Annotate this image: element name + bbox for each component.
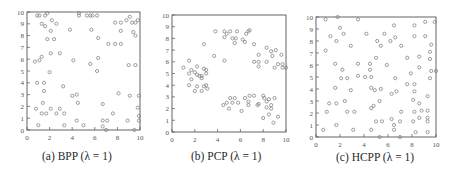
data-point-marker xyxy=(97,56,100,59)
data-point-marker xyxy=(34,107,37,110)
data-point-marker xyxy=(413,90,416,93)
caption-hcpp: (c) HCPP (λ = 1) xyxy=(336,151,414,163)
x-tick-label: 4 xyxy=(216,136,220,144)
data-point-marker xyxy=(53,38,56,41)
data-point-marker xyxy=(343,99,346,102)
data-point-marker xyxy=(356,62,359,65)
data-point-marker xyxy=(270,50,273,53)
x-tick-label: 10 xyxy=(433,141,441,149)
data-point-marker xyxy=(46,38,49,41)
data-point-marker xyxy=(257,65,260,68)
data-point-marker xyxy=(376,39,379,42)
data-point-marker xyxy=(374,120,377,123)
data-point-marker xyxy=(252,94,255,97)
x-tick-label: 6 xyxy=(93,134,97,142)
data-point-marker xyxy=(68,28,71,31)
data-point-marker xyxy=(188,72,191,75)
data-point-marker xyxy=(193,89,196,92)
y-tick-label: 3 xyxy=(310,98,314,106)
y-tick-label: 10 xyxy=(162,12,170,20)
data-point-marker xyxy=(324,49,327,52)
data-point-marker xyxy=(89,62,92,65)
data-point-marker xyxy=(125,19,128,22)
y-tick-label: 9 xyxy=(21,20,25,28)
data-point-marker xyxy=(325,110,328,113)
data-point-marker xyxy=(43,25,46,28)
data-point-marker xyxy=(49,107,52,110)
y-tick-label: 5 xyxy=(21,68,25,76)
data-point-marker xyxy=(426,109,429,112)
y-tick-label: 6 xyxy=(166,58,170,66)
data-point-marker xyxy=(136,106,139,109)
data-point-marker xyxy=(418,116,421,119)
data-point-marker xyxy=(418,55,421,58)
data-point-marker xyxy=(223,36,226,39)
data-point-marker xyxy=(338,26,341,29)
data-point-marker xyxy=(356,18,359,21)
y-tick-label: 0 xyxy=(166,129,170,137)
data-point-marker xyxy=(373,89,376,92)
y-tick-label: 5 xyxy=(166,70,170,78)
data-point-marker xyxy=(222,103,225,106)
data-point-marker xyxy=(409,72,412,75)
data-point-marker xyxy=(265,46,268,49)
data-point-marker xyxy=(364,75,367,78)
y-tick-label: 5 xyxy=(310,74,314,82)
data-point-marker xyxy=(58,107,61,110)
data-point-marker xyxy=(114,21,117,24)
data-point-marker xyxy=(428,77,431,80)
data-point-marker xyxy=(234,37,237,40)
data-point-marker xyxy=(349,44,352,47)
data-point-marker xyxy=(200,77,203,80)
data-point-marker xyxy=(62,85,65,88)
data-point-marker xyxy=(252,60,255,63)
data-point-marker xyxy=(414,131,417,134)
data-point-marker xyxy=(231,101,234,104)
data-point-marker xyxy=(280,53,283,56)
data-point-marker xyxy=(119,29,122,32)
chart-panel-pcp: 0246810012345678910 (b) PCP (λ = 1) xyxy=(150,0,300,175)
data-point-marker xyxy=(206,87,209,90)
data-point-marker xyxy=(101,102,104,105)
y-tick-label: 2 xyxy=(21,103,25,111)
data-point-marker xyxy=(342,32,345,35)
y-tick-label: 9 xyxy=(166,23,170,31)
data-point-marker xyxy=(394,36,397,39)
y-tick-label: 8 xyxy=(310,38,314,46)
data-point-marker xyxy=(368,62,371,65)
x-tick-label: 4 xyxy=(70,134,74,142)
data-point-marker xyxy=(395,90,398,93)
data-point-marker xyxy=(346,77,349,80)
data-point-marker xyxy=(40,112,43,115)
data-point-marker xyxy=(400,110,403,113)
data-point-marker xyxy=(58,52,61,55)
x-tick-label: 0 xyxy=(314,141,318,149)
data-point-marker xyxy=(340,77,343,80)
data-point-marker xyxy=(50,19,53,22)
data-point-marker xyxy=(426,116,429,119)
data-point-marker xyxy=(341,68,344,71)
data-point-marker xyxy=(225,32,228,35)
data-point-marker xyxy=(195,85,198,88)
y-tick-label: 8 xyxy=(166,35,170,43)
data-point-marker xyxy=(390,117,393,120)
caption-pcp: (b) PCP (λ = 1) xyxy=(191,150,261,162)
data-point-marker xyxy=(225,101,228,104)
data-point-marker xyxy=(406,56,409,59)
data-point-marker xyxy=(272,121,275,124)
data-point-marker xyxy=(101,125,104,128)
data-point-marker xyxy=(38,59,41,62)
y-tick-label: 8 xyxy=(21,32,25,40)
data-point-marker xyxy=(257,53,260,56)
y-tick-label: 9 xyxy=(310,26,314,34)
data-point-marker xyxy=(126,119,129,122)
data-point-marker xyxy=(281,66,284,69)
data-point-marker xyxy=(270,107,273,110)
data-point-marker xyxy=(378,99,381,102)
data-point-marker xyxy=(426,95,429,98)
y-tick-label: 2 xyxy=(310,110,314,118)
data-point-marker xyxy=(392,128,395,131)
data-point-marker xyxy=(48,71,51,74)
data-point-marker xyxy=(229,96,232,99)
data-point-marker xyxy=(202,43,205,46)
